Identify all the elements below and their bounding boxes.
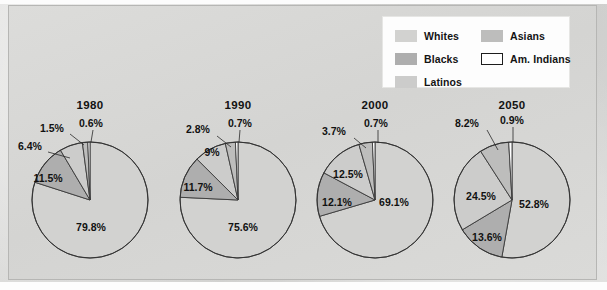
- legend-item-whites: Whites: [395, 25, 462, 46]
- legend-item-am-indians: Am. Indians: [481, 48, 571, 69]
- pie-value-label: 0.9%: [500, 114, 524, 126]
- legend-item-asians: Asians: [481, 25, 571, 46]
- legend-item-label: Asians: [510, 30, 545, 42]
- legend-column-right: AsiansAm. Indians: [481, 25, 571, 71]
- legend-item-label: Blacks: [424, 53, 458, 65]
- legend-item-label: Am. Indians: [510, 53, 571, 65]
- legend-item-blacks: Blacks: [395, 48, 462, 69]
- chart-legend: WhitesBlacksLatinos AsiansAm. Indians: [382, 16, 570, 88]
- legend-column-left: WhitesBlacksLatinos: [395, 25, 462, 94]
- pie-value-label: 8.2%: [455, 117, 479, 129]
- legend-swatch-icon: [395, 76, 417, 88]
- legend-swatch-icon: [395, 30, 417, 42]
- figure-pie-chart-panel: 198079.8%11.5%6.4%1.5%0.6%199075.6%11.7%…: [0, 0, 607, 290]
- pie-value-label: 13.6%: [447, 231, 527, 243]
- legend-swatch-icon: [395, 53, 417, 65]
- legend-item-label: Whites: [424, 30, 459, 42]
- pie-value-label: 24.5%: [441, 190, 521, 202]
- legend-swatch-icon: [481, 53, 503, 65]
- legend-item-label: Latinos: [424, 76, 462, 88]
- legend-swatch-icon: [481, 30, 503, 42]
- legend-item-latinos: Latinos: [395, 71, 462, 92]
